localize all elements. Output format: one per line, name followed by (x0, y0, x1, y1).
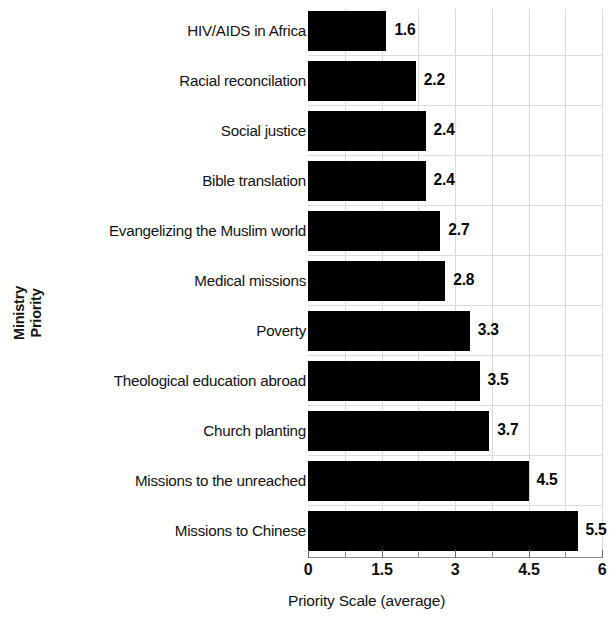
bar-value-label: 4.5 (537, 469, 558, 491)
bar-value-label: 1.6 (394, 19, 415, 41)
bar-row: Bible translation2.4 (0, 159, 609, 209)
bar-category-label: HIV/AIDS in Africa (187, 20, 306, 42)
bar-row: Theological education abroad3.5 (0, 359, 609, 409)
bar (308, 261, 445, 301)
bar-value-label: 2.8 (453, 269, 474, 291)
bar-row: Medical missions2.8 (0, 259, 609, 309)
bar-value-label: 2.7 (448, 219, 469, 241)
bar-value-label: 2.4 (434, 169, 455, 191)
bar-chart-figure: Ministry Priority HIV/AIDS in Africa1.6R… (0, 0, 609, 627)
bar (308, 211, 440, 251)
x-axis-tick (345, 552, 346, 558)
bar-row: Social justice2.4 (0, 109, 609, 159)
x-axis-tick-label: 3 (425, 561, 485, 579)
x-axis-tick-label: 6 (572, 561, 609, 579)
x-axis-tick (529, 550, 530, 558)
bar (308, 511, 578, 551)
bar (308, 361, 480, 401)
bar-row: Poverty3.3 (0, 309, 609, 359)
bar-row: Missions to Chinese5.5 (0, 509, 609, 559)
bar-row: Evangelizing the Muslim world2.7 (0, 209, 609, 259)
bar-category-label: Theological education abroad (114, 370, 306, 392)
bar-value-label: 2.2 (424, 69, 445, 91)
bar-row: HIV/AIDS in Africa1.6 (0, 9, 609, 59)
x-axis-tick (418, 552, 419, 558)
bar-row: Racial reconcilation2.2 (0, 59, 609, 109)
bar-value-label: 3.7 (497, 419, 518, 441)
bar (308, 61, 416, 101)
bar-rows-container: HIV/AIDS in Africa1.6Racial reconcilatio… (0, 9, 609, 559)
bar-category-label: Social justice (221, 120, 306, 142)
x-axis-tick-label: 4.5 (499, 561, 559, 579)
bar-value-label: 3.5 (488, 369, 509, 391)
x-axis-tick (382, 550, 383, 558)
bar (308, 11, 386, 51)
x-axis-tick (492, 552, 493, 558)
bar (308, 411, 489, 451)
x-axis-tick-label: 1.5 (352, 561, 412, 579)
bar-category-label: Church planting (203, 420, 306, 442)
bar-category-label: Medical missions (194, 270, 306, 292)
bar-value-label: 5.5 (586, 519, 607, 541)
bar-category-label: Missions to Chinese (175, 520, 306, 542)
bar-category-label: Poverty (256, 320, 306, 342)
bar (308, 161, 426, 201)
bar-row: Church planting3.7 (0, 409, 609, 459)
bar (308, 111, 426, 151)
bar-value-label: 3.3 (478, 319, 499, 341)
bar-category-label: Bible translation (202, 170, 306, 192)
bar-category-label: Evangelizing the Muslim world (109, 220, 306, 242)
bar-category-label: Racial reconcilation (179, 70, 306, 92)
x-axis-tick (455, 550, 456, 558)
bar (308, 461, 529, 501)
x-axis-title: Priority Scale (average) (288, 592, 609, 610)
bar-category-label: Missions to the unreached (135, 470, 306, 492)
x-axis-tick (565, 552, 566, 558)
bar-value-label: 2.4 (434, 119, 455, 141)
x-axis-tick (602, 550, 603, 558)
bar (308, 311, 470, 351)
x-axis-tick (308, 550, 309, 558)
x-axis-tick-label: 0 (278, 561, 338, 579)
bar-row: Missions to the unreached4.5 (0, 459, 609, 509)
